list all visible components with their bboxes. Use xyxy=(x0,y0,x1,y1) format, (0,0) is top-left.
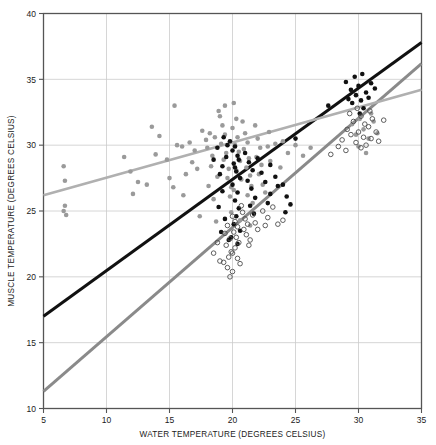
data-point xyxy=(301,153,306,158)
data-point xyxy=(248,173,253,178)
data-point xyxy=(157,134,162,139)
data-point xyxy=(354,93,359,98)
data-point xyxy=(245,140,250,145)
x-axis-title: WATER TEMPERATURE (DEGREES CELSIUS) xyxy=(140,430,326,439)
data-point xyxy=(249,186,254,191)
data-point xyxy=(211,197,216,202)
data-point xyxy=(136,180,141,185)
data-point xyxy=(259,171,264,176)
data-point xyxy=(268,159,273,164)
data-point xyxy=(356,84,361,89)
data-point xyxy=(243,131,248,136)
x-tick-label: 25 xyxy=(291,415,301,425)
data-point xyxy=(230,126,235,131)
data-point xyxy=(238,218,243,223)
data-point xyxy=(184,172,189,177)
data-point xyxy=(153,152,158,157)
data-point xyxy=(250,168,255,173)
data-point xyxy=(211,157,216,162)
data-point xyxy=(205,146,210,151)
data-point xyxy=(218,114,223,119)
data-point xyxy=(145,182,150,187)
y-tick-label: 40 xyxy=(27,9,37,19)
data-point xyxy=(230,148,235,153)
y-tick-label: 10 xyxy=(27,404,37,414)
data-point xyxy=(226,238,231,243)
data-point xyxy=(175,143,180,148)
data-point xyxy=(215,146,220,151)
data-point xyxy=(61,164,66,169)
data-point xyxy=(373,86,378,91)
data-point xyxy=(237,149,242,154)
data-point xyxy=(234,117,239,122)
data-point xyxy=(233,144,238,149)
data-point xyxy=(293,143,298,148)
scatter-plot-figure: 510152025303510152025303540 WATER TEMPER… xyxy=(0,0,436,445)
data-point xyxy=(209,164,214,169)
data-point xyxy=(231,161,236,166)
data-point xyxy=(228,139,233,144)
data-point xyxy=(214,219,219,224)
data-point xyxy=(247,160,252,165)
data-point xyxy=(230,182,235,187)
data-point xyxy=(350,101,355,106)
data-point xyxy=(308,146,313,151)
data-point xyxy=(364,90,369,95)
data-point xyxy=(218,172,223,177)
data-point xyxy=(171,185,176,190)
data-point xyxy=(220,164,225,169)
data-point xyxy=(284,194,289,199)
data-point xyxy=(231,101,236,106)
data-point xyxy=(235,135,240,140)
data-point xyxy=(197,214,202,219)
data-point xyxy=(165,157,170,162)
data-point xyxy=(253,123,258,128)
data-point xyxy=(248,203,253,208)
data-point xyxy=(286,151,291,156)
data-point xyxy=(233,165,238,170)
plot-svg: 510152025303510152025303540 WATER TEMPER… xyxy=(0,0,436,445)
data-point xyxy=(366,95,371,100)
data-point xyxy=(224,151,229,156)
x-tick-label: 15 xyxy=(165,415,175,425)
data-point xyxy=(359,98,364,103)
data-point xyxy=(208,131,213,136)
data-point xyxy=(253,196,258,201)
data-point xyxy=(216,109,221,114)
data-point xyxy=(349,88,354,93)
data-point xyxy=(210,153,215,158)
data-point xyxy=(221,135,226,140)
data-point xyxy=(252,211,257,216)
data-point xyxy=(64,213,69,218)
data-point xyxy=(63,178,68,183)
x-tick-label: 35 xyxy=(417,415,427,425)
data-point xyxy=(131,192,136,197)
data-point xyxy=(223,103,228,108)
data-point xyxy=(278,165,283,170)
data-point xyxy=(223,217,228,222)
y-tick-label: 15 xyxy=(27,338,37,348)
data-point xyxy=(245,193,250,198)
data-point xyxy=(235,153,240,158)
data-point xyxy=(180,144,185,149)
data-point xyxy=(276,184,281,189)
data-point xyxy=(268,192,273,197)
data-point xyxy=(360,72,365,77)
data-point xyxy=(220,189,225,194)
data-point xyxy=(361,106,366,111)
x-tick-label: 5 xyxy=(41,415,46,425)
data-point xyxy=(150,124,155,129)
data-point xyxy=(240,119,245,124)
data-point xyxy=(231,188,236,193)
data-point xyxy=(237,157,242,162)
data-point xyxy=(167,176,172,181)
data-point xyxy=(190,160,195,165)
data-point xyxy=(293,136,298,141)
data-point xyxy=(244,165,249,170)
y-tick-label: 20 xyxy=(27,272,37,282)
data-point xyxy=(228,194,233,199)
data-point xyxy=(128,169,133,174)
data-point xyxy=(273,174,278,179)
data-point xyxy=(247,156,252,161)
data-point xyxy=(255,156,260,161)
